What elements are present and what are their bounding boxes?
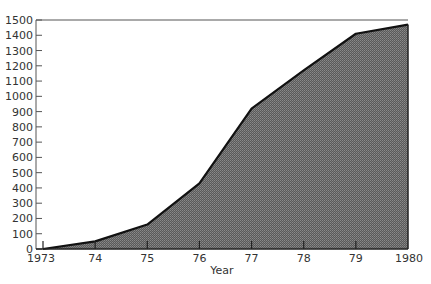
x-tick-label: 75 (140, 252, 154, 265)
y-tick-label: 400 (12, 182, 33, 195)
y-tick-label: 1100 (5, 75, 33, 88)
y-tick-label: 200 (12, 212, 33, 225)
y-tick-label: 700 (12, 136, 33, 149)
y-tick-label: 100 (12, 228, 33, 241)
y-tick-label: 1000 (5, 90, 33, 103)
x-tick-label: 77 (245, 252, 259, 265)
x-tick-label: 74 (88, 252, 102, 265)
y-tick-label: 1200 (5, 60, 33, 73)
area-polygon (43, 25, 408, 249)
y-tick-label: 1300 (5, 45, 33, 58)
y-tick-label: 1400 (5, 29, 33, 42)
y-tick-label: 500 (12, 167, 33, 180)
y-tick-label: 1500 (5, 14, 33, 27)
y-tick-label: 900 (12, 106, 33, 119)
x-axis-title: Year (209, 264, 234, 277)
x-tick-label: 76 (192, 252, 206, 265)
area-chart: 0100200300400500600700800900100011001200… (0, 0, 431, 284)
y-tick-label: 600 (12, 151, 33, 164)
y-tick-label: 800 (12, 121, 33, 134)
x-tick-label: 1973 (27, 252, 55, 265)
x-tick-label: 78 (297, 252, 311, 265)
x-tick-label: 79 (349, 252, 363, 265)
y-tick-label: 300 (12, 197, 33, 210)
y-axis: 0100200300400500600700800900100011001200… (5, 14, 42, 256)
x-tick-label: 1980 (395, 252, 423, 265)
area-fill (43, 25, 408, 249)
